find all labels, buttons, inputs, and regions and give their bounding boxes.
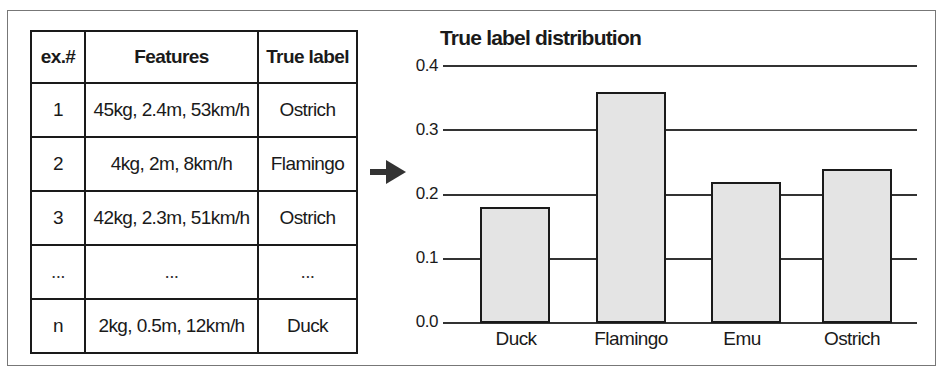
table-row: n 2kg, 0.5m, 12km/h Duck (31, 299, 357, 353)
cell-ellipsis: ... (31, 245, 85, 299)
x-tick-label: Emu (687, 328, 797, 350)
cell-true-label: Ostrich (258, 83, 357, 137)
cell-ellipsis: ... (258, 245, 357, 299)
cell-example-number: 3 (31, 191, 85, 245)
y-tick-label: 0.2 (404, 184, 438, 204)
cell-example-number: n (31, 299, 85, 353)
table-row: 2 4kg, 2m, 8km/h Flamingo (31, 137, 357, 191)
table-header-row: ex.# Features True label (31, 31, 357, 83)
cell-true-label: Ostrich (258, 191, 357, 245)
y-tick-label: 0.4 (404, 56, 438, 76)
training-examples-table: ex.# Features True label 1 45kg, 2.4m, 5… (30, 30, 358, 354)
table-row: 3 42kg, 2.3m, 51km/h Ostrich (31, 191, 357, 245)
cell-example-number: 2 (31, 137, 85, 191)
bar-ostrich (822, 169, 892, 323)
header-example-number: ex.# (31, 31, 85, 83)
table-row: 1 45kg, 2.4m, 53km/h Ostrich (31, 83, 357, 137)
header-features: Features (85, 31, 258, 83)
x-tick-label: Flamingo (576, 328, 686, 350)
bar-emu (711, 182, 781, 323)
cell-ellipsis: ... (85, 245, 258, 299)
arrow-right-icon (370, 160, 406, 184)
y-tick-label: 0.0 (404, 312, 438, 332)
cell-features: 4kg, 2m, 8km/h (85, 137, 258, 191)
gridline (443, 65, 917, 67)
y-tick-label: 0.3 (404, 120, 438, 140)
cell-features: 42kg, 2.3m, 51km/h (85, 191, 258, 245)
header-true-label: True label (258, 31, 357, 83)
x-tick-label: Ostrich (797, 328, 907, 350)
cell-features: 45kg, 2.4m, 53km/h (85, 83, 258, 137)
cell-true-label: Duck (258, 299, 357, 353)
table-row-ellipsis: ... ... ... (31, 245, 357, 299)
cell-true-label: Flamingo (258, 137, 357, 191)
bar-duck (480, 207, 550, 323)
cell-example-number: 1 (31, 83, 85, 137)
chart-title: True label distribution (440, 26, 641, 50)
y-tick-label: 0.1 (404, 248, 438, 268)
bar-flamingo (596, 92, 666, 323)
gridline (443, 129, 917, 131)
cell-features: 2kg, 0.5m, 12km/h (85, 299, 258, 353)
x-tick-label: Duck (461, 328, 571, 350)
